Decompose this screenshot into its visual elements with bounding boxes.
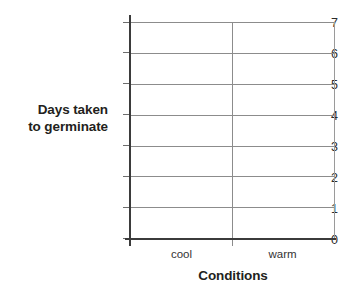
y-axis-title-line-2: to germinate: [0, 118, 108, 135]
germination-bar-chart: Days taken to germinate 0 1 2 3 4 5 6 7 …: [0, 0, 353, 301]
gridline-3: [131, 146, 335, 147]
plot-right-border: [334, 22, 335, 239]
x-axis-baseline: [125, 238, 336, 240]
gridline-6: [131, 53, 335, 54]
category-divider-line: [232, 22, 233, 246]
gridline-5: [131, 84, 335, 85]
x-tick-label-warm: warm: [232, 248, 333, 261]
gridline-2: [131, 176, 335, 177]
x-tick-label-cool: cool: [131, 248, 232, 261]
plot-area: [131, 22, 335, 238]
gridline-1: [131, 207, 335, 208]
x-axis-title: Conditions: [131, 268, 335, 283]
y-axis-title-line-1: Days taken: [0, 101, 108, 118]
gridline-7: [131, 22, 335, 23]
gridline-4: [131, 115, 335, 116]
y-axis-title: Days taken to germinate: [0, 101, 108, 135]
